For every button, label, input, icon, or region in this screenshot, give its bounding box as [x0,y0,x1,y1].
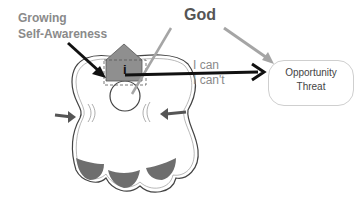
label-god: God [184,6,216,24]
label-i-cant: I can't [193,73,225,88]
label-growing: Growing [18,10,107,26]
arrow-left-push [55,111,76,123]
label-growing-self-awareness: Growing Self-Awareness [18,10,107,42]
label-opportunity: Opportunity [268,66,354,80]
label-i-can-group: I can I can't [193,58,225,88]
label-threat: Threat [268,80,354,94]
opportunity-threat-text: Opportunity Threat [268,66,354,94]
label-i-can: I can [193,58,225,73]
label-self-awareness: Self-Awareness [18,26,107,42]
house-letter: i [123,62,127,77]
